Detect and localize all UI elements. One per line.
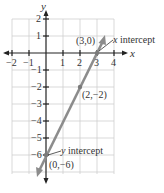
y-tick-label: 2 [36, 13, 41, 24]
y-intercept-label: y intercept [60, 145, 103, 156]
y-tick-label: −5 [31, 132, 42, 143]
x-axis-left-arrow-icon [3, 51, 9, 56]
y-tick-label: −3 [31, 98, 42, 109]
coordinate-plane: y x −2 −1 1 2 3 4 2 1 −1 −2 −3 −4 −5 −6 … [0, 0, 164, 193]
x-intercept-label: x intercept [112, 34, 155, 45]
x-tick-label: 1 [60, 57, 65, 68]
x-tick-label: 4 [111, 57, 116, 68]
y-tick-label: −2 [31, 81, 42, 92]
point-label-0-neg6: (0,−6) [49, 159, 74, 171]
x-axis [3, 50, 128, 56]
x-tick-labels: −2 −1 1 2 3 4 [6, 57, 116, 68]
point-x-intercept [95, 51, 99, 55]
x-axis-right-arrow-icon [122, 51, 128, 56]
y-tick-labels: 2 1 −1 −2 −3 −4 −5 −6 [31, 13, 42, 160]
point-label-2-neg2: (2,−2) [82, 89, 107, 101]
y-axis-down-arrow-icon [44, 178, 49, 184]
x-tick-label: −2 [6, 57, 17, 68]
y-tick-label: 1 [36, 30, 41, 41]
x-tick-label: 2 [77, 57, 82, 68]
y-tick-label: −4 [31, 115, 42, 126]
y-axis-label: y [40, 0, 46, 12]
point-y-intercept [44, 153, 48, 157]
x-axis-label: x [129, 47, 135, 59]
y-tick-label: −1 [31, 64, 42, 75]
point-label-3-0: (3,0) [76, 35, 95, 47]
y-tick-label: −6 [31, 149, 42, 160]
line-up-arrow-icon [99, 35, 107, 45]
